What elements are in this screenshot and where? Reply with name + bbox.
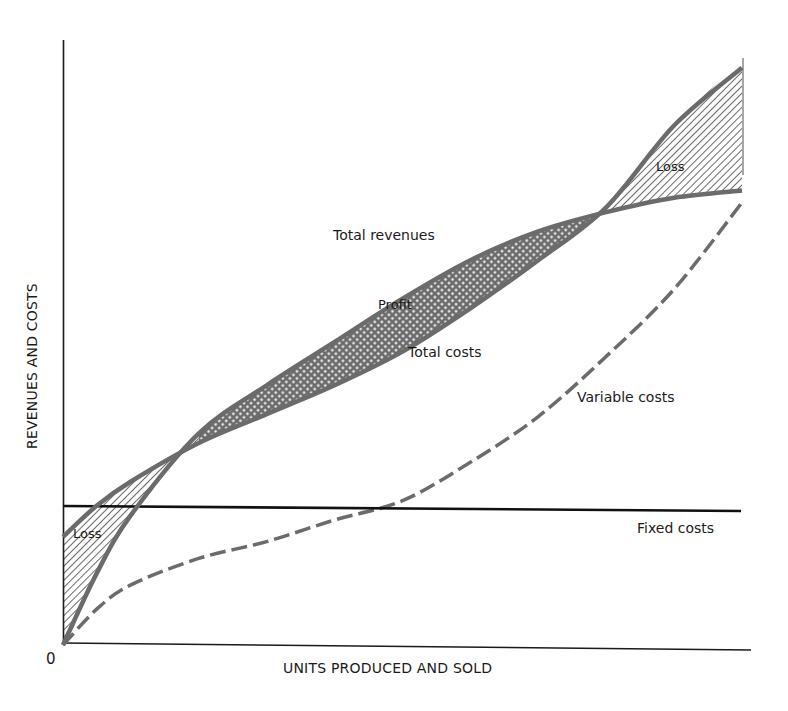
fixed-costs-label: Fixed costs	[637, 521, 714, 535]
fixed-costs-line	[63, 506, 741, 511]
x-axis-title: UNITS PRODUCED AND SOLD	[283, 661, 492, 675]
loss-label-right: Loss	[656, 160, 685, 173]
variable-costs-curve	[63, 202, 742, 645]
total-revenues-curve	[63, 190, 742, 645]
total-costs-label: Total costs	[408, 345, 482, 359]
x-axis	[63, 643, 751, 650]
y-axis-title: REVENUES AND COSTS	[25, 283, 39, 449]
break-even-chart	[0, 0, 788, 711]
profit-label: Profit	[378, 298, 412, 311]
total-revenues-label: Total revenues	[333, 228, 435, 242]
loss-label-left: Loss	[73, 527, 102, 540]
origin-label: 0	[46, 652, 56, 667]
variable-costs-label: Variable costs	[577, 390, 674, 404]
